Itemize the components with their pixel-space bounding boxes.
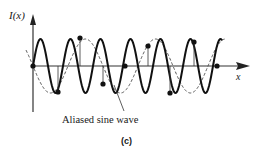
figure-caption: (c) (121, 136, 132, 146)
aliasing-diagram (0, 0, 261, 155)
aliased-wave-callout: Aliased sine wave (62, 114, 138, 125)
sample-point (214, 63, 219, 68)
sample-point (30, 63, 35, 68)
x-axis-arrowhead-icon (236, 62, 250, 70)
sample-point (191, 39, 196, 44)
x-axis-label: x (236, 71, 240, 82)
y-axis-label: I(x) (9, 9, 25, 21)
sample-point (55, 89, 60, 94)
y-axis-arrowhead-icon (30, 14, 36, 25)
sample-point (145, 43, 150, 48)
sample-point (122, 63, 127, 68)
sample-point (167, 90, 172, 95)
sample-point (100, 81, 105, 86)
sample-point (77, 35, 82, 40)
